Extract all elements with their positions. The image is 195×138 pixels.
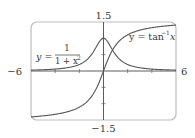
- label-denominator: 1 + x: [55, 56, 78, 66]
- label-variable: x: [170, 31, 176, 42]
- label-exponent: −1: [161, 29, 170, 36]
- label-numerator: 1: [64, 43, 69, 53]
- curve-label-reciprocal: y = 1 1 + x 2: [35, 43, 81, 66]
- chart: 1.5 −1.5 −6 6 y = 1 1 + x 2 y = tan −1 x: [0, 0, 195, 138]
- label-lhs: y = tan: [128, 31, 164, 42]
- x-max-label: 6: [181, 66, 187, 77]
- label-lhs: y =: [35, 51, 52, 62]
- y-max-label: 1.5: [96, 10, 112, 21]
- y-min-label: −1.5: [91, 123, 115, 134]
- label-denominator-exponent: 2: [77, 54, 81, 61]
- curve-label-arctan: y = tan −1 x: [128, 29, 176, 42]
- x-min-label: −6: [7, 66, 22, 77]
